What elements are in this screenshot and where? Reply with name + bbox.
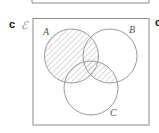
universal-set-symbol: ℰ [21, 20, 28, 31]
set-b-label: B [129, 25, 135, 35]
part-label-c: c [9, 19, 15, 30]
previous-figure-box-edge [32, 0, 149, 3]
venn-diagram-figure: c ℰ c A B C [0, 0, 159, 133]
set-a-label: A [43, 27, 49, 37]
part-label-next-partial: c [155, 17, 159, 28]
set-c-label: C [110, 108, 117, 118]
